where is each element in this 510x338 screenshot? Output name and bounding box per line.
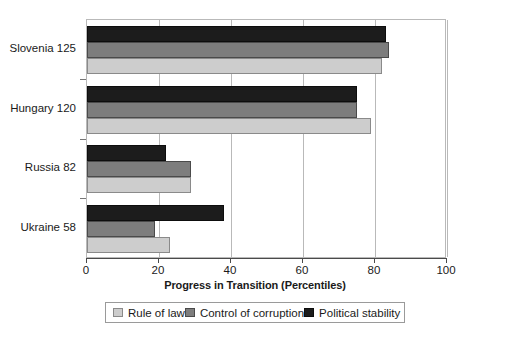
bar-control-of-corruption <box>87 42 389 58</box>
y-axis-label-1: Hungary 120 <box>10 102 76 114</box>
legend-item-rule[interactable]: Rule of law <box>113 307 185 319</box>
legend-item-political[interactable]: Political stability <box>304 307 400 319</box>
x-tick-60 <box>302 258 303 263</box>
chart-legend: Rule of lawControl of corruptionPolitica… <box>105 302 405 323</box>
x-tick-80 <box>374 258 375 263</box>
legend-label: Rule of law <box>128 307 185 319</box>
x-tick-100 <box>446 258 447 263</box>
bar-row <box>87 102 447 118</box>
legend-swatch-corruption-icon <box>185 308 195 317</box>
bar-political-stability <box>87 145 166 161</box>
gridline-100 <box>447 20 448 257</box>
x-axis-line <box>86 258 446 259</box>
bar-rule-of-law <box>87 118 371 134</box>
legend-swatch-political-icon <box>304 308 314 317</box>
x-tick-label-60: 60 <box>282 264 322 276</box>
x-tick-label-80: 80 <box>354 264 394 276</box>
bar-row <box>87 161 447 177</box>
plot-area <box>86 19 446 258</box>
bar-row <box>87 42 447 58</box>
bar-control-of-corruption <box>87 102 357 118</box>
bar-rule-of-law <box>87 237 170 253</box>
x-tick-label-0: 0 <box>66 264 106 276</box>
legend-swatch-rule-icon <box>113 308 123 317</box>
bar-rule-of-law <box>87 58 382 74</box>
x-tick-0 <box>86 258 87 263</box>
x-tick-20 <box>158 258 159 263</box>
bar-rule-of-law <box>87 177 191 193</box>
category-tick <box>80 198 86 199</box>
bar-chart: Slovenia 125Hungary 120Russia 82Ukraine … <box>0 0 510 338</box>
y-axis-category-labels: Slovenia 125Hungary 120Russia 82Ukraine … <box>0 19 80 258</box>
category-tick <box>80 139 86 140</box>
bar-political-stability <box>87 26 386 42</box>
x-tick-label-20: 20 <box>138 264 178 276</box>
bar-political-stability <box>87 205 224 221</box>
y-axis-label-3: Ukraine 58 <box>20 221 76 233</box>
bar-row <box>87 205 447 221</box>
legend-label: Political stability <box>319 307 400 319</box>
bar-control-of-corruption <box>87 161 191 177</box>
legend-label: Control of corruption <box>200 307 304 319</box>
bar-row <box>87 26 447 42</box>
y-axis-label-2: Russia 82 <box>25 161 76 173</box>
bar-row <box>87 58 447 74</box>
bar-row <box>87 177 447 193</box>
bar-row <box>87 118 447 134</box>
bar-row <box>87 221 447 237</box>
bar-control-of-corruption <box>87 221 155 237</box>
y-axis-label-0: Slovenia 125 <box>10 42 77 54</box>
x-tick-40 <box>230 258 231 263</box>
category-tick <box>80 79 86 80</box>
x-tick-label-40: 40 <box>210 264 250 276</box>
bar-row <box>87 237 447 253</box>
legend-item-corruption[interactable]: Control of corruption <box>185 307 304 319</box>
bar-political-stability <box>87 86 357 102</box>
bar-row <box>87 86 447 102</box>
x-tick-label-100: 100 <box>426 264 466 276</box>
x-axis-title: Progress in Transition (Percentiles) <box>0 279 510 291</box>
bar-row <box>87 145 447 161</box>
